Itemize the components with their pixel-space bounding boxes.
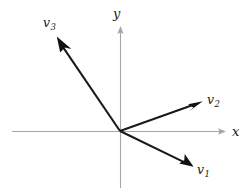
x-axis-label: x (232, 125, 239, 138)
vector-v2-label-subscript: 2 (214, 99, 220, 109)
vector-v1-label-subscript: 1 (204, 169, 210, 179)
vector-v3-label: v3 (43, 17, 56, 30)
vector-v2-label: v2 (207, 94, 220, 107)
y-axis-label: y (113, 7, 120, 20)
vector-diagram-figure: x y v1 v2 v3 (0, 0, 252, 192)
vector-v1-line (120, 131, 186, 163)
vector-v3-line (62, 46, 120, 131)
vector-v2-line (120, 104, 194, 131)
vector-v3-label-subscript: 3 (50, 22, 56, 32)
vector-v1-label: v1 (197, 164, 210, 177)
